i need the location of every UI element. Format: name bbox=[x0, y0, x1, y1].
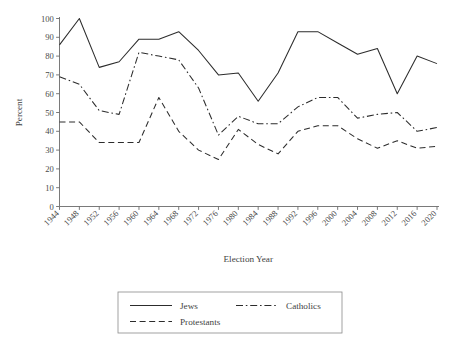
y-axis-group: 0102030405060708090100 Percent bbox=[14, 14, 60, 212]
chart-figure: 0102030405060708090100 Percent 194419481… bbox=[0, 0, 457, 339]
x-axis-title: Election Year bbox=[224, 254, 274, 264]
series-line-protestants bbox=[60, 97, 438, 159]
x-tick-label: 1968 bbox=[161, 208, 180, 227]
x-tick-label: 1960 bbox=[121, 208, 140, 227]
x-axis-group: 1944194819521956196019641968197219761980… bbox=[42, 207, 439, 265]
x-tick-label: 2004 bbox=[340, 208, 360, 228]
legend-label-protestants: Protestants bbox=[180, 317, 221, 327]
y-tick-label: 50 bbox=[45, 108, 54, 118]
x-tick-label: 2000 bbox=[320, 208, 339, 227]
x-tick-label: 1964 bbox=[141, 208, 161, 228]
x-tick-label: 1992 bbox=[280, 208, 299, 227]
y-tick-marks bbox=[56, 19, 59, 207]
y-tick-label: 40 bbox=[45, 126, 54, 136]
x-tick-label: 1948 bbox=[62, 208, 81, 227]
x-tick-label: 2020 bbox=[419, 208, 438, 227]
x-tick-label: 1996 bbox=[300, 208, 320, 228]
legend-box bbox=[118, 292, 342, 333]
y-tick-label: 90 bbox=[45, 32, 54, 42]
x-tick-labels: 1944194819521956196019641968197219761980… bbox=[42, 208, 439, 228]
y-tick-label: 20 bbox=[45, 164, 54, 174]
x-tick-label: 1980 bbox=[221, 208, 240, 227]
y-tick-label: 70 bbox=[45, 70, 54, 80]
x-tick-label: 2016 bbox=[399, 208, 419, 228]
series-line-jews bbox=[60, 19, 438, 102]
data-series-group bbox=[60, 19, 438, 160]
x-tick-label: 1972 bbox=[181, 208, 200, 227]
series-line-catholics bbox=[60, 52, 438, 135]
x-tick-label: 1944 bbox=[42, 208, 62, 228]
x-tick-label: 1976 bbox=[201, 208, 221, 228]
x-tick-label: 1956 bbox=[101, 208, 121, 228]
y-tick-label: 100 bbox=[41, 14, 54, 24]
legend-label-jews: Jews bbox=[180, 301, 198, 311]
x-tick-label: 1952 bbox=[81, 208, 100, 227]
x-tick-label: 1984 bbox=[240, 208, 260, 228]
y-tick-labels: 0102030405060708090100 bbox=[41, 14, 54, 212]
y-tick-label: 80 bbox=[45, 51, 54, 61]
y-tick-label: 10 bbox=[45, 183, 54, 193]
chart-legend: JewsCatholicsProtestants bbox=[118, 292, 342, 333]
x-tick-marks bbox=[60, 207, 438, 210]
legend-label-catholics: Catholics bbox=[286, 301, 321, 311]
y-tick-label: 60 bbox=[45, 89, 54, 99]
line-chart: 0102030405060708090100 Percent 194419481… bbox=[0, 0, 457, 339]
x-tick-label: 1988 bbox=[260, 208, 279, 227]
x-tick-label: 2012 bbox=[379, 208, 398, 227]
y-axis-title: Percent bbox=[14, 98, 24, 126]
y-tick-label: 30 bbox=[45, 145, 54, 155]
x-tick-label: 2008 bbox=[360, 208, 379, 227]
